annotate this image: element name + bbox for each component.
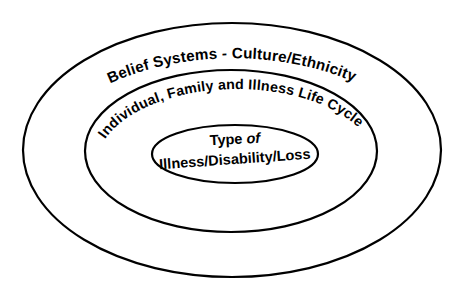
inner-ring-label-line1-group: Type of (209, 130, 262, 149)
inner-ring-label-line1: Type of (209, 130, 262, 149)
inner-ring-label-type: Type (209, 131, 243, 149)
diagram-container: Belief Systems - Culture/Ethnicity Indiv… (0, 0, 463, 295)
nested-ellipse-diagram: Belief Systems - Culture/Ethnicity Indiv… (0, 0, 463, 295)
